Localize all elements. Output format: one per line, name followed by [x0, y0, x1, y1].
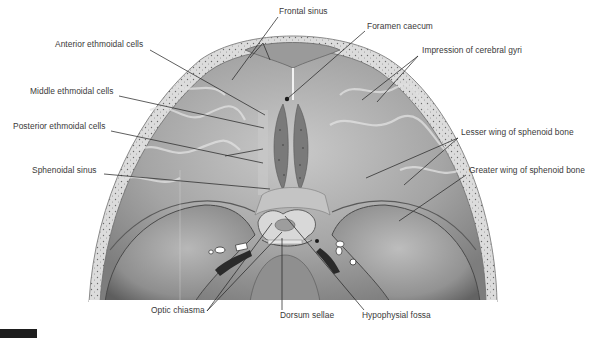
figure-number-tab [0, 329, 37, 338]
label-impression-of-cerebral-gyri: Impression of cerebral gyri [422, 45, 522, 55]
label-posterior-ethmoidal-cells: Posterior ethmoidal cells [13, 121, 105, 131]
cranial-base-figure: Frontal sinus Foramen caecum Anterior et… [0, 0, 596, 338]
label-lesser-wing-of-sphenoid-bone: Lesser wing of sphenoid bone [461, 127, 574, 137]
label-dorsum-sellae: Dorsum sellae [280, 310, 334, 320]
label-frontal-sinus: Frontal sinus [279, 6, 328, 16]
label-sphenoidal-sinus: Sphenoidal sinus [32, 165, 97, 175]
label-anterior-ethmoidal-cells: Anterior ethmoidal cells [55, 39, 143, 49]
label-greater-wing-of-sphenoid-bone: Greater wing of sphenoid bone [469, 165, 585, 175]
label-hypophysial-fossa: Hypophysial fossa [362, 310, 431, 320]
dorsum-sellae-shape [268, 240, 302, 244]
hypophysial-fossa-shape [275, 219, 295, 231]
label-foramen-caecum: Foramen caecum [367, 21, 433, 31]
label-middle-ethmoidal-cells: Middle ethmoidal cells [30, 86, 114, 96]
label-optic-chiasma: Optic chiasma [151, 305, 205, 315]
